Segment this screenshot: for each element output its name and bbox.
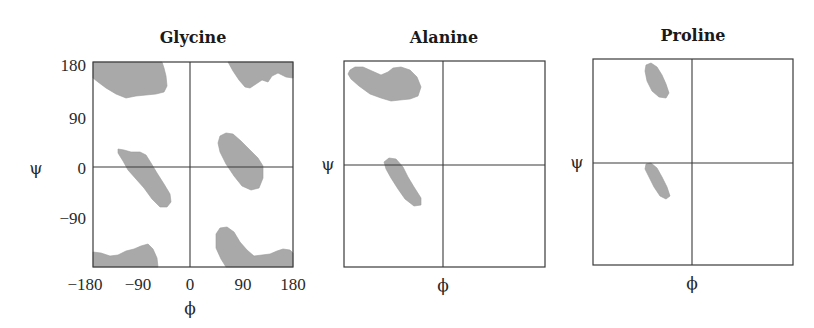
x-tick-0: 0 [186, 275, 195, 294]
y-tick-90: 90 [69, 109, 86, 128]
glycine-region-upper-right [228, 62, 293, 88]
proline-psi-label: ψ [570, 152, 583, 172]
proline-region-alpha [645, 163, 670, 199]
glycine-psi-label: ψ [29, 158, 42, 178]
glycine-region-lower-right [216, 227, 293, 267]
x-tick-90: 90 [235, 275, 252, 294]
panel-title-proline: Proline [660, 26, 725, 45]
glycine-region-lower-left [93, 244, 158, 267]
glycine-panel: Glycine 180 90 0 −90 −180 −90 0 90 180 ψ… [29, 28, 305, 318]
alanine-panel: Alanine ψ ϕ [321, 28, 545, 295]
x-tick-180: 180 [280, 275, 306, 294]
alanine-psi-label: ψ [321, 154, 334, 174]
x-tick-minus-180: −180 [67, 275, 102, 294]
y-tick-minus-90: −90 [59, 209, 86, 228]
glycine-phi-label: ϕ [184, 298, 196, 318]
panel-title-alanine: Alanine [409, 28, 478, 47]
proline-plot-frame [593, 59, 793, 265]
proline-allowed-regions [645, 63, 670, 199]
alanine-phi-label: ϕ [437, 275, 449, 295]
alanine-region-beta [348, 67, 421, 101]
alanine-allowed-regions [348, 67, 421, 206]
y-tick-180: 180 [61, 56, 87, 75]
ramachandran-figure: Glycine 180 90 0 −90 −180 −90 0 90 180 ψ… [0, 0, 814, 328]
proline-panel: Proline ψ ϕ [570, 26, 793, 293]
y-tick-0: 0 [78, 159, 87, 178]
glycine-y-ticks: 180 90 0 −90 [59, 56, 86, 228]
proline-phi-label: ϕ [686, 273, 698, 293]
glycine-x-ticks: −180 −90 0 90 180 [67, 275, 305, 294]
panel-title-glycine: Glycine [160, 28, 227, 47]
glycine-region-middle-right [218, 133, 263, 190]
proline-region-beta [645, 63, 669, 98]
x-tick-minus-90: −90 [125, 275, 152, 294]
glycine-region-middle-left [118, 149, 171, 207]
glycine-allowed-regions [93, 62, 293, 267]
glycine-region-upper-left [93, 62, 167, 98]
